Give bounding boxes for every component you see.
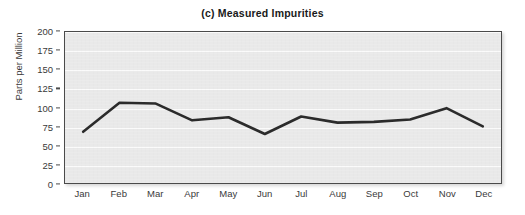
y-axis-tick-label: 150 (37, 64, 53, 75)
y-axis-tick-mark (56, 183, 60, 184)
y-axis-tick-mark (56, 50, 60, 51)
x-axis-tick-label: Apr (184, 188, 199, 199)
y-axis-tick-label: 75 (42, 121, 53, 132)
x-axis-tick-label: Aug (329, 188, 346, 199)
chart-figure: (c) Measured Impurities Parts per Millio… (0, 0, 525, 215)
y-axis-tick-label: 125 (37, 83, 53, 94)
y-axis-tick-group: 0255075100125150175200 (0, 31, 60, 184)
y-axis-tick-mark (56, 88, 60, 89)
y-axis-tick-mark (56, 69, 60, 70)
series-line-measured-impurities (65, 32, 501, 184)
x-axis-tick-group: JanFebMarAprMayJunJulAugSepOctNovDec (64, 188, 502, 206)
x-axis-tick-label: Dec (475, 188, 492, 199)
y-axis-tick-label: 200 (37, 26, 53, 37)
y-axis-tick-mark (56, 126, 60, 127)
y-axis-tick-mark (56, 164, 60, 165)
y-axis-tick-mark (56, 107, 60, 108)
x-axis-tick-label: Feb (111, 188, 127, 199)
y-axis-tick-label: 0 (48, 179, 53, 190)
y-axis-tick-mark (56, 30, 60, 31)
y-axis-tick-label: 100 (37, 102, 53, 113)
plot-shell (64, 31, 502, 184)
y-axis-tick-label: 50 (42, 140, 53, 151)
x-axis-tick-label: Jul (295, 188, 307, 199)
series-polyline (83, 103, 483, 134)
y-axis-tick-label: 175 (37, 45, 53, 56)
x-axis-tick-label: Nov (439, 188, 456, 199)
y-axis-tick-mark (56, 145, 60, 146)
chart-title: (c) Measured Impurities (0, 7, 525, 19)
x-axis-tick-label: May (219, 188, 237, 199)
plot-area (64, 31, 502, 184)
x-axis-tick-label: Mar (147, 188, 163, 199)
y-axis-tick-label: 25 (42, 159, 53, 170)
x-axis-tick-label: Jan (75, 188, 90, 199)
x-axis-tick-label: Jun (257, 188, 272, 199)
x-axis-tick-label: Oct (403, 188, 418, 199)
x-axis-tick-label: Sep (366, 188, 383, 199)
